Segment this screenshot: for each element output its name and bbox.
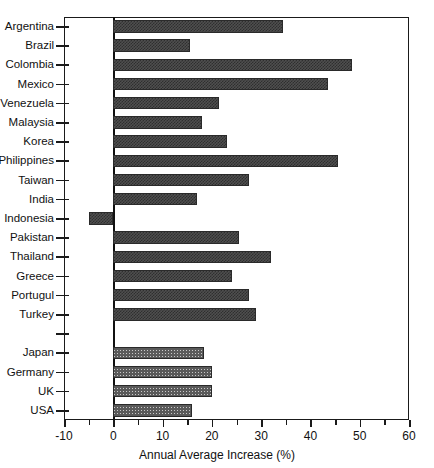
category-row: Korea	[0, 132, 434, 151]
bar	[113, 270, 231, 282]
y-axis-tick	[56, 256, 69, 258]
y-axis-tick	[56, 64, 69, 66]
category-row: Venezuela	[0, 94, 434, 113]
category-row: Thailand	[0, 247, 434, 266]
bar	[113, 404, 192, 416]
category-row: Pakistan	[0, 228, 434, 247]
bar	[113, 385, 212, 397]
category-label-text: Pakistan	[10, 228, 54, 247]
bar	[113, 231, 239, 243]
x-axis-major-tick	[64, 420, 66, 427]
bar	[113, 39, 189, 51]
x-axis-tick-label: 30	[254, 429, 267, 443]
category-label-text: Germany	[7, 363, 54, 382]
x-axis-minor-tick	[138, 420, 140, 425]
category-label-text: Indonesia	[4, 209, 54, 228]
category-row: USA	[0, 401, 434, 420]
x-axis-major-tick	[409, 420, 411, 427]
x-axis-minor-tick	[187, 420, 189, 425]
category-row: UK	[0, 382, 434, 401]
category-row: Portugul	[0, 286, 434, 305]
category-label-text: USA	[30, 401, 54, 420]
x-axis-tick-label: 50	[353, 429, 366, 443]
category-row: Taiwan	[0, 171, 434, 190]
bar	[89, 212, 114, 224]
y-axis-tick	[56, 276, 69, 278]
y-axis-tick	[56, 314, 69, 316]
category-row: Argentina	[0, 17, 434, 36]
bar	[113, 289, 249, 301]
category-row: Indonesia	[0, 209, 434, 228]
bar	[113, 97, 219, 109]
x-axis-minor-tick	[335, 420, 337, 425]
x-axis-tick-label: 20	[205, 429, 218, 443]
category-label-text: Thailand	[10, 247, 54, 266]
category-row: Turkey	[0, 305, 434, 324]
category-row: Colombia	[0, 55, 434, 74]
y-axis-tick	[56, 352, 69, 354]
x-axis: -100102030405060 Annual Average Increase…	[0, 420, 434, 468]
x-axis-tick-label: 40	[304, 429, 317, 443]
category-label-text: Philippines	[0, 151, 54, 170]
x-axis-major-tick	[163, 420, 165, 427]
category-row: Mexico	[0, 75, 434, 94]
category-label-text: India	[29, 190, 54, 209]
y-axis-tick	[56, 391, 69, 393]
bar	[113, 366, 212, 378]
x-axis-major-tick	[113, 420, 115, 427]
x-axis-major-tick	[261, 420, 263, 427]
bar	[113, 20, 283, 32]
bar	[113, 308, 256, 320]
y-axis-tick	[56, 141, 69, 143]
x-axis-minor-tick	[237, 420, 239, 425]
y-axis-tick	[56, 103, 69, 105]
y-axis-tick	[56, 45, 69, 47]
bar	[113, 59, 352, 71]
y-axis-tick	[56, 180, 69, 182]
category-row: Malaysia	[0, 113, 434, 132]
y-axis-tick	[56, 199, 69, 201]
category-label-text: Portugul	[11, 286, 54, 305]
y-axis-tick	[56, 122, 69, 124]
category-label-text: Japan	[23, 343, 54, 362]
category-label-text: Brazil	[25, 36, 54, 55]
y-axis-tick	[56, 160, 69, 162]
category-row: Japan	[0, 343, 434, 362]
category-row: Germany	[0, 363, 434, 382]
bar	[113, 193, 197, 205]
category-label-text: Turkey	[19, 305, 54, 324]
y-axis-tick	[56, 410, 69, 412]
x-axis-tick-label: 0	[110, 429, 117, 443]
x-axis-title: Annual Average Increase (%)	[0, 448, 434, 462]
x-axis-minor-tick	[384, 420, 386, 425]
category-label-text: Venezuela	[0, 94, 54, 113]
bar-chart: ArgentinaBrazilColombiaMexicoVenezuelaMa…	[0, 0, 434, 468]
y-axis-tick	[56, 84, 69, 86]
category-row: India	[0, 190, 434, 209]
category-row: Philippines	[0, 151, 434, 170]
category-label-text: Greece	[16, 267, 54, 286]
category-row: Brazil	[0, 36, 434, 55]
y-axis-tick	[56, 295, 69, 297]
bar	[113, 135, 226, 147]
x-axis-minor-tick	[89, 420, 91, 425]
bar	[113, 251, 271, 263]
x-axis-tick-label: 60	[402, 429, 415, 443]
y-axis-tick	[56, 372, 69, 374]
bar	[113, 155, 337, 167]
bar	[113, 174, 249, 186]
bar	[113, 347, 204, 359]
category-label-text: Colombia	[5, 55, 54, 74]
x-axis-tick-label: 10	[156, 429, 169, 443]
x-axis-minor-tick	[286, 420, 288, 425]
spacer-row	[0, 324, 434, 343]
category-label-text: Mexico	[18, 75, 54, 94]
x-axis-tick-label: -10	[55, 429, 72, 443]
x-axis-major-tick	[360, 420, 362, 427]
y-axis-tick	[56, 333, 69, 335]
category-label-text: Argentina	[5, 17, 54, 36]
y-axis-tick	[56, 237, 69, 239]
category-label-text: Taiwan	[18, 171, 54, 190]
category-row: Greece	[0, 267, 434, 286]
bar	[113, 116, 202, 128]
